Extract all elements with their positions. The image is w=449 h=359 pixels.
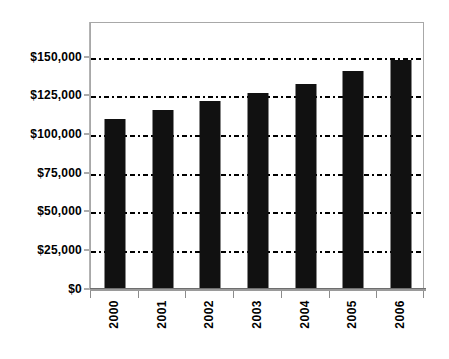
y-axis-labels: $150,000 $125,000 $100,000 $75,000 $50,0…: [0, 0, 86, 359]
x-axis-tick-mark: [233, 291, 234, 298]
bar-slot: [234, 23, 282, 289]
x-axis-tick-mark: [423, 291, 424, 298]
x-axis-tick-label: 2003: [250, 300, 264, 329]
y-axis-tick-label: $75,000: [37, 166, 82, 180]
x-axis-tick-mark: [185, 291, 186, 298]
y-axis-tick-label: $150,000: [30, 50, 82, 64]
x-axis-tick-label: 2000: [107, 300, 121, 329]
y-axis-tick-label: $50,000: [37, 204, 82, 218]
bar-series: [91, 23, 423, 289]
y-axis-tick-label: $0: [68, 282, 82, 296]
x-axis-tick-label: 2006: [393, 300, 407, 329]
plot-area: [90, 22, 424, 290]
x-axis-tick-mark: [376, 291, 377, 298]
x-axis-tick-label: 2002: [202, 300, 216, 329]
bar[interactable]: [391, 60, 412, 290]
bar-slot: [282, 23, 330, 289]
x-axis-tick-mark: [329, 291, 330, 298]
y-axis-tick-label: $125,000: [30, 88, 82, 102]
x-axis-tick-label: 2001: [155, 300, 169, 329]
bar[interactable]: [247, 93, 268, 291]
x-axis-tick-label: 2004: [298, 300, 312, 329]
x-axis-ticks: [90, 291, 424, 299]
x-axis-tick-mark: [138, 291, 139, 298]
bar[interactable]: [104, 119, 125, 290]
bar-slot: [377, 23, 425, 289]
bar-slot: [91, 23, 139, 289]
bar-chart: $150,000 $125,000 $100,000 $75,000 $50,0…: [0, 0, 449, 359]
y-axis-tick-label: $25,000: [37, 243, 82, 257]
bar-slot: [139, 23, 187, 289]
bar-slot: [330, 23, 378, 289]
x-axis-labels: 2000200120022003200420052006: [90, 300, 424, 358]
bar[interactable]: [295, 84, 316, 291]
x-axis-tick-mark: [90, 291, 91, 298]
bar[interactable]: [152, 110, 173, 291]
bar-slot: [186, 23, 234, 289]
x-axis-tick-label: 2005: [345, 300, 359, 329]
bar[interactable]: [343, 71, 364, 290]
bar[interactable]: [200, 101, 221, 291]
x-axis-tick-mark: [281, 291, 282, 298]
y-axis-tick-label: $100,000: [30, 127, 82, 141]
